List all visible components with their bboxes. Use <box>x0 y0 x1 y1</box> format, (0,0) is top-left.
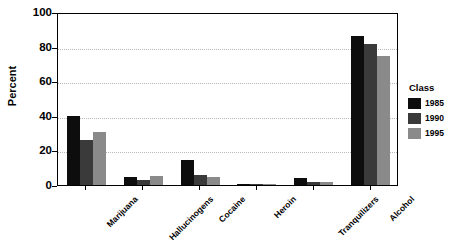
legend-entries: 198519901995 <box>408 98 458 139</box>
bar[interactable] <box>150 176 163 185</box>
x-axis-tick-mark <box>199 186 200 190</box>
y-axis-tick-label: 20 <box>16 146 52 158</box>
bar[interactable] <box>377 56 390 185</box>
y-axis-tick-mark <box>52 117 57 118</box>
legend-entry[interactable]: 1995 <box>408 128 458 139</box>
bar[interactable] <box>207 177 220 185</box>
legend-title: Class <box>409 82 458 93</box>
bar-group <box>294 14 333 185</box>
x-axis-tick-label: Cocaine <box>217 194 247 224</box>
bar[interactable] <box>80 140 93 185</box>
bar[interactable] <box>263 184 276 185</box>
legend-label: 1995 <box>425 129 444 138</box>
y-axis-tick-mark <box>52 82 57 83</box>
bar[interactable] <box>137 180 150 185</box>
x-axis-tick-mark <box>370 186 371 190</box>
y-axis-tick-mark <box>52 48 57 49</box>
bar[interactable] <box>67 116 80 185</box>
bar[interactable] <box>294 178 307 185</box>
y-axis-tick-mark <box>52 186 57 187</box>
plot-area <box>57 13 398 186</box>
bar[interactable] <box>320 182 333 185</box>
y-axis-tick-label: 0 <box>16 180 52 192</box>
x-axis-tick-mark <box>85 186 86 190</box>
bar-group <box>351 14 390 185</box>
y-axis-tick-label: 80 <box>16 42 52 54</box>
legend-entry[interactable]: 1985 <box>408 98 458 109</box>
bar[interactable] <box>237 184 250 185</box>
x-axis-tick-label: Marijuana <box>105 194 140 229</box>
y-axis-tick-label: 100 <box>16 7 52 19</box>
legend-swatch <box>408 113 421 124</box>
bar[interactable] <box>194 175 207 185</box>
bars-layer <box>58 14 397 185</box>
bar[interactable] <box>93 132 106 185</box>
y-axis-tick-labels: 020406080100 <box>16 13 52 186</box>
bar[interactable] <box>181 160 194 185</box>
bar-group <box>124 14 163 185</box>
legend-swatch <box>408 98 421 109</box>
x-axis-tick-label: Alcohol <box>387 194 416 223</box>
x-axis-tick-label: Heroin <box>272 194 298 220</box>
bar[interactable] <box>364 44 377 185</box>
x-axis-tick-labels: MarijuanaHallucinogensCocaineHeroinTranq… <box>57 186 398 250</box>
legend-label: 1985 <box>425 99 444 108</box>
legend: Class 198519901995 <box>408 82 458 143</box>
bar[interactable] <box>351 36 364 185</box>
legend-label: 1990 <box>425 114 444 123</box>
bar-group <box>237 14 276 185</box>
x-axis-tick-mark <box>256 186 257 190</box>
bar[interactable] <box>250 184 263 185</box>
bar-group <box>181 14 220 185</box>
y-axis-tick-mark <box>52 151 57 152</box>
y-axis-tick-mark <box>52 13 57 14</box>
bar-group <box>67 14 106 185</box>
y-axis-tick-label: 60 <box>16 76 52 88</box>
x-axis-tick-label: Hallucinogens <box>167 194 215 242</box>
x-axis-tick-mark <box>142 186 143 190</box>
y-axis-tick-label: 40 <box>16 111 52 123</box>
legend-swatch <box>408 128 421 139</box>
bar-chart-figure: Percent 020406080100 MarijuanaHallucinog… <box>0 0 459 250</box>
x-axis-tick-mark <box>313 186 314 190</box>
x-axis-tick-label: Tranquilizers <box>336 194 380 238</box>
bar[interactable] <box>307 182 320 185</box>
bar[interactable] <box>124 177 137 185</box>
legend-entry[interactable]: 1990 <box>408 113 458 124</box>
